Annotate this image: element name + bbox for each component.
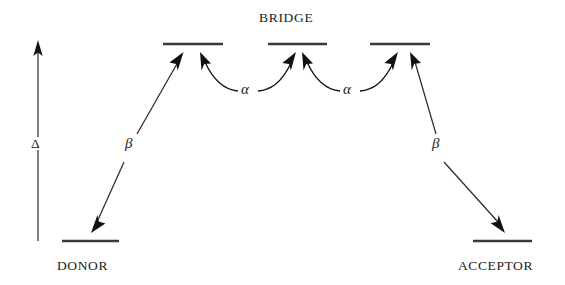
beta-right-shaft-lower bbox=[444, 162, 498, 222]
alpha-right-label: α bbox=[343, 82, 351, 97]
alpha-left-curve-right-half bbox=[258, 63, 291, 91]
beta-left-shaft-lower bbox=[97, 162, 124, 222]
alpha-left-curve-left-half bbox=[205, 62, 238, 91]
beta-left-shaft-upper bbox=[137, 62, 178, 134]
beta-right-coupling-arrow bbox=[410, 52, 505, 233]
beta-left-arrowhead-down-icon bbox=[91, 215, 105, 233]
beta-right-arrowhead-down-icon bbox=[491, 215, 505, 233]
alpha-right-curve-right-half bbox=[360, 63, 393, 91]
alpha-left-label: α bbox=[241, 82, 249, 97]
beta-right-label: β bbox=[432, 136, 439, 151]
donor-label: DONOR bbox=[57, 259, 108, 273]
bridge-group-label: BRIDGE bbox=[259, 11, 313, 25]
alpha-right-arrowhead-left-icon bbox=[302, 52, 313, 70]
energy-level-diagram: BRIDGE DONOR ACCEPTOR Δ β β α α bbox=[0, 0, 565, 285]
alpha-left-arrowhead-left-icon bbox=[200, 52, 211, 70]
beta-right-shaft-upper bbox=[415, 62, 436, 134]
beta-left-arrowhead-up-icon bbox=[169, 52, 183, 71]
alpha-right-curve-left-half bbox=[307, 62, 340, 91]
acceptor-label: ACCEPTOR bbox=[458, 259, 533, 273]
beta-left-coupling-arrow bbox=[91, 52, 184, 233]
beta-right-arrowhead-up-icon bbox=[410, 52, 421, 70]
delta-label: Δ bbox=[31, 137, 40, 151]
beta-left-label: β bbox=[125, 136, 132, 151]
diagram-canvas bbox=[0, 0, 565, 285]
